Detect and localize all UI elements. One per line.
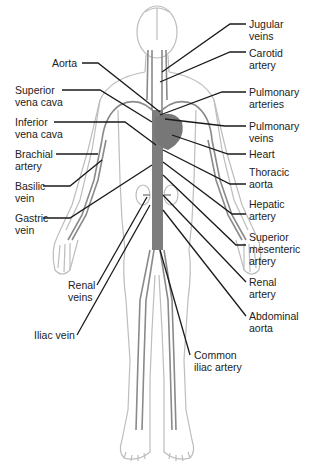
circulatory-system-diagram: Aorta Superior vena cava Inferior vena c… (0, 0, 316, 468)
label-pulmonary-veins: Pulmonary veins (249, 120, 299, 144)
label-jugular-veins: Jugular veins (249, 18, 283, 42)
label-carotid-artery: Carotid artery (249, 47, 283, 71)
label-gastric-vein: Gastric vein (15, 212, 48, 236)
label-pulmonary-arteries: Pulmonary arteries (249, 86, 299, 110)
label-aorta: Aorta (52, 57, 77, 69)
label-brachial-artery: Brachial artery (15, 148, 53, 172)
label-basilic-vein: Basilic vein (15, 180, 45, 204)
label-common-iliac-artery: Common iliac artery (194, 349, 242, 373)
leader-lines (43, 24, 246, 355)
label-renal-veins: Renal veins (68, 279, 95, 303)
label-renal-artery: Renal artery (249, 276, 276, 300)
label-superior-vena-cava: Superior vena cava (15, 84, 63, 108)
label-abdominal-aorta: Abdominal aorta (249, 310, 299, 334)
label-thoracic-aorta: Thoracic aorta (249, 166, 289, 190)
label-iliac-vein: Iliac vein (34, 329, 75, 341)
label-inferior-vena-cava: Inferior vena cava (15, 116, 63, 140)
label-hepatic-artery: Hepatic artery (249, 198, 285, 222)
label-superior-mesenteric-artery: Superior mesenteric artery (249, 231, 300, 267)
label-heart: Heart (249, 148, 275, 160)
